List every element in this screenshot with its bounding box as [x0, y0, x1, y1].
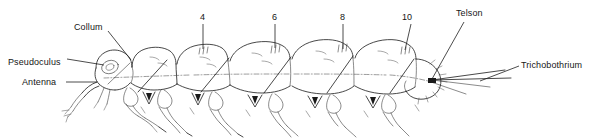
label-collum: Collum — [74, 22, 103, 32]
segment-number-6: 6 — [272, 12, 277, 22]
median-dashed-line — [104, 74, 428, 81]
dorsal-setae — [150, 51, 398, 67]
figure-container: Collum Pseudoculus Antenna Telson Tricho… — [0, 0, 594, 138]
label-telson: Telson — [456, 8, 483, 18]
body-outline — [95, 40, 441, 100]
label-trichobothrium: Trichobothrium — [521, 60, 582, 70]
segment-number-8: 8 — [340, 12, 345, 22]
leader-lines — [66, 22, 519, 82]
mouthparts — [94, 88, 110, 110]
telson-bristles — [418, 60, 511, 104]
label-antenna: Antenna — [22, 77, 56, 87]
segment-divisions — [199, 44, 410, 54]
antenna — [62, 82, 99, 122]
legs — [124, 88, 409, 137]
segment-number-10: 10 — [402, 12, 412, 22]
label-pseudoculus: Pseudoculus — [8, 57, 61, 67]
segment-number-4: 4 — [200, 12, 205, 22]
protura-lateral-drawing — [0, 0, 594, 138]
